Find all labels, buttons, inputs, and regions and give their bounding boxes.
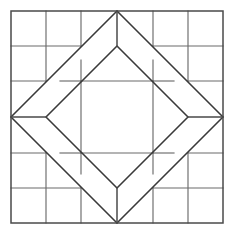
quilt-block-diagram (0, 0, 237, 235)
figure-root (0, 0, 237, 235)
